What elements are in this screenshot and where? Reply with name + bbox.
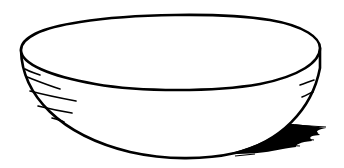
bowl-rim bbox=[21, 15, 320, 90]
bowl-illustration bbox=[0, 0, 344, 168]
bowl-shadow bbox=[232, 124, 326, 156]
bowl-drawing bbox=[0, 0, 344, 168]
